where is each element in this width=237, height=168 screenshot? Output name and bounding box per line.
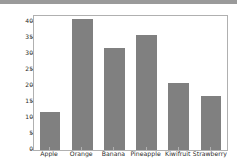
x-tick-label-pineapple: Pineapple: [130, 151, 160, 157]
plot-area: [34, 16, 227, 150]
x-tick-label-banana: Banana: [102, 151, 125, 157]
x-tick-label-strawberry: Strawberry: [193, 151, 227, 157]
y-tick-label: 35: [7, 34, 33, 40]
plot-axes-frame: [33, 15, 228, 151]
y-tick-label: 0: [7, 146, 33, 152]
bar-orange: [72, 19, 93, 150]
y-tick-label: 25: [7, 66, 33, 72]
bar-kiwifruit: [168, 83, 189, 150]
y-tick-label: 15: [7, 98, 33, 104]
y-tick-label: 10: [7, 114, 33, 120]
x-tick-label-apple: Apple: [40, 151, 58, 157]
bar-strawberry: [201, 96, 222, 150]
x-tick-label-kiwifruit: Kiwifruit: [165, 151, 190, 157]
bar-banana: [104, 48, 125, 150]
y-tick-label: 5: [7, 130, 33, 136]
bar-pineapple: [136, 35, 157, 150]
bar-apple: [40, 112, 61, 150]
y-tick-label: 40: [7, 18, 33, 24]
x-axis: AppleOrangeBananaPineappleKiwifruitStraw…: [33, 147, 228, 167]
x-tick-label-orange: Orange: [70, 151, 93, 157]
y-tick-label: 20: [7, 82, 33, 88]
chart-figure: 0510152025303540 AppleOrangeBananaPineap…: [0, 4, 237, 168]
y-tick-label: 30: [7, 50, 33, 56]
y-axis: 0510152025303540: [0, 4, 33, 168]
